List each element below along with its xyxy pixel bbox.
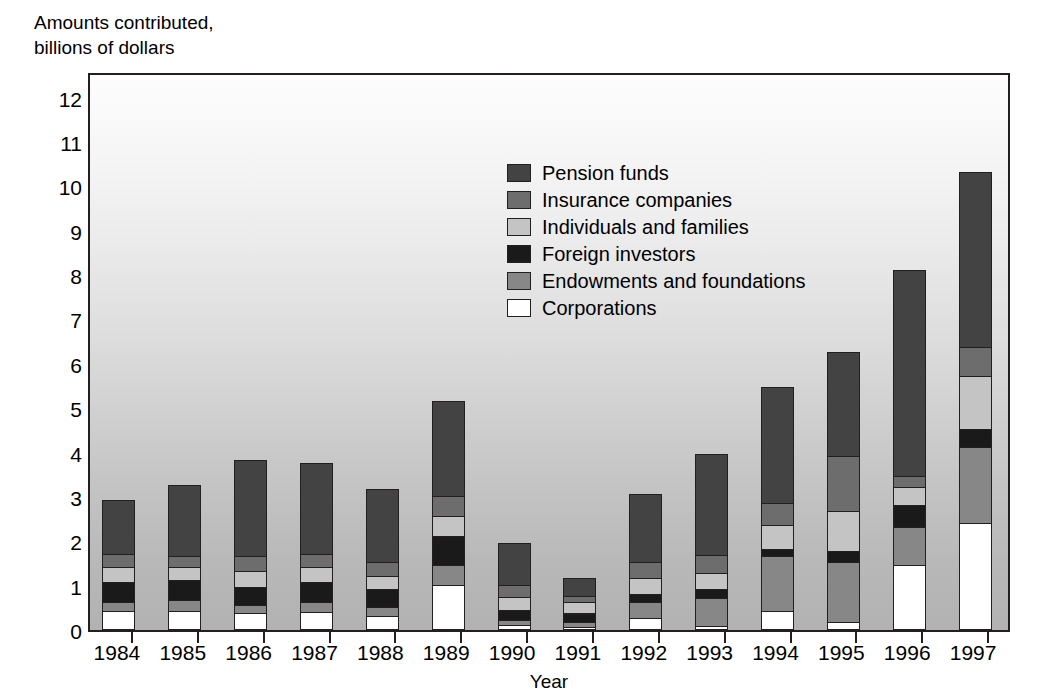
bar-segment	[827, 511, 860, 552]
y-axis-tick-label: 11	[40, 133, 82, 154]
bar-segment	[629, 594, 662, 604]
legend-item-endowments-and-foundations: Endowments and foundations	[507, 267, 837, 294]
bar-segment	[234, 605, 267, 615]
bar-segment	[695, 555, 728, 574]
legend-swatch-icon	[507, 272, 531, 290]
bar-segment	[366, 616, 399, 630]
bar-segment	[432, 516, 465, 537]
bar-1992	[629, 495, 662, 630]
bar-segment	[959, 429, 992, 448]
y-axis-tick-label: 12	[40, 89, 82, 110]
legend-item-foreign-investors: Foreign investors	[507, 240, 837, 267]
bar-segment	[366, 489, 399, 563]
y-axis-title: Amounts contributed, billions of dollars	[34, 10, 214, 60]
bar-segment	[893, 476, 926, 488]
bar-segment	[102, 567, 135, 584]
bar-segment	[102, 602, 135, 612]
bar-1984	[102, 501, 135, 630]
legend-label: Individuals and families	[542, 217, 749, 237]
bar-segment	[168, 556, 201, 568]
bar-segment	[827, 622, 860, 630]
bar-segment	[827, 551, 860, 563]
bar-segment	[563, 614, 596, 624]
x-axis-tick-label-1995: 1995	[808, 640, 874, 666]
bar-1995	[827, 353, 860, 630]
x-axis-tick-label-1994: 1994	[743, 640, 809, 666]
legend-label: Pension funds	[542, 163, 669, 183]
bar-segment	[366, 607, 399, 617]
y-axis-tick-label: 4	[40, 444, 82, 465]
x-axis-tick-label-1987: 1987	[282, 640, 348, 666]
y-axis-tick-label: 9	[40, 222, 82, 243]
y-axis-tick-label: 0	[40, 621, 82, 642]
bar-segment	[629, 618, 662, 630]
y-axis-tick-label: 10	[40, 177, 82, 198]
plot-area: Pension fundsInsurance companiesIndividu…	[88, 73, 1010, 632]
bar-segment	[498, 543, 531, 586]
bar-segment	[629, 494, 662, 564]
bar-segment	[893, 565, 926, 630]
bar-segment	[498, 597, 531, 611]
bar-segment	[827, 352, 860, 457]
bar-segment	[761, 549, 794, 557]
x-axis-tick-label-1997: 1997	[940, 640, 1006, 666]
bar-segment	[234, 587, 267, 606]
bar-segment	[563, 596, 596, 604]
legend-swatch-icon	[507, 164, 531, 182]
bar-segment	[498, 585, 531, 598]
bar-segment	[959, 172, 992, 348]
y-axis-tick-label: 5	[40, 399, 82, 420]
bar-segment	[629, 578, 662, 595]
bar-1994	[761, 388, 794, 630]
bar-1996	[893, 271, 926, 630]
legend-item-corporations: Corporations	[507, 294, 837, 321]
legend-item-insurance-companies: Insurance companies	[507, 186, 837, 213]
x-axis-tick-label-1990: 1990	[479, 640, 545, 666]
x-axis-tick-label-1996: 1996	[874, 640, 940, 666]
bar-segment	[695, 598, 728, 628]
bar-segment	[234, 556, 267, 573]
bar-1987	[300, 464, 333, 630]
bar-segment	[300, 554, 333, 568]
bar-segment	[102, 554, 135, 568]
bar-segment	[234, 571, 267, 588]
bar-segment	[959, 347, 992, 377]
bar-segment	[959, 376, 992, 430]
bar-segment	[827, 456, 860, 512]
bar-1989	[432, 402, 465, 630]
legend-swatch-icon	[507, 191, 531, 209]
bar-segment	[168, 600, 201, 612]
legend-label: Foreign investors	[542, 244, 695, 264]
bar-segment	[498, 610, 531, 621]
bar-segment	[432, 585, 465, 630]
bar-segment	[761, 387, 794, 503]
bar-segment	[300, 582, 333, 603]
bar-1993	[695, 455, 728, 630]
bar-segment	[432, 496, 465, 517]
bar-segment	[300, 463, 333, 555]
bar-segment	[563, 602, 596, 614]
bar-segment	[959, 523, 992, 630]
legend-label: Insurance companies	[542, 190, 732, 210]
bar-segment	[300, 567, 333, 584]
bar-1997	[959, 173, 992, 630]
x-axis-tick-label-1984: 1984	[84, 640, 150, 666]
bar-segment	[366, 589, 399, 608]
bar-segment	[827, 562, 860, 623]
legend-label: Corporations	[542, 298, 657, 318]
x-axis-tick-labels: 1984198519861987198819891990199119921993…	[88, 640, 1010, 670]
bar-segment	[695, 589, 728, 599]
bar-segment	[366, 576, 399, 590]
bar-segment	[366, 562, 399, 576]
x-axis-tick-label-1988: 1988	[347, 640, 413, 666]
bar-1988	[366, 490, 399, 630]
bar-segment	[432, 536, 465, 566]
x-axis-tick-label-1991: 1991	[545, 640, 611, 666]
bar-segment	[234, 460, 267, 556]
bar-segment	[761, 556, 794, 612]
bar-segment	[893, 270, 926, 477]
bar-segment	[695, 454, 728, 557]
legend-swatch-icon	[507, 218, 531, 236]
bar-segment	[300, 612, 333, 630]
bar-segment	[761, 611, 794, 630]
